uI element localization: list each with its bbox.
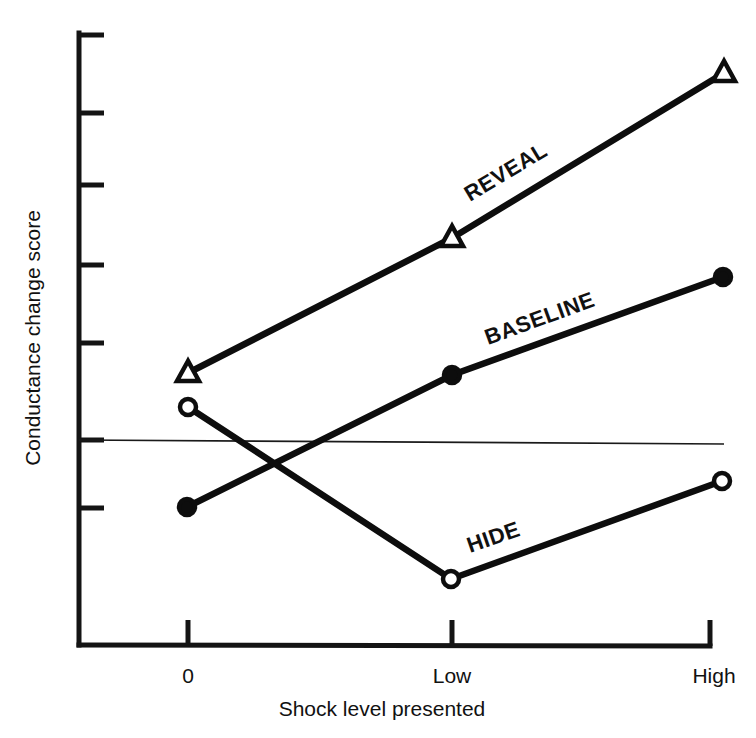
series-hide-line	[188, 407, 722, 579]
series-baseline-line	[187, 277, 723, 507]
series-hide-marker-0	[180, 399, 196, 415]
series-baseline-marker-2	[715, 269, 731, 285]
series-baseline	[179, 269, 731, 515]
x-axis-title: Shock level presented	[279, 697, 486, 720]
x-tick-label-high: High	[692, 664, 735, 687]
series-label-hide: HIDE	[463, 516, 523, 557]
x-tick-label-low: Low	[433, 664, 472, 687]
x-axis-group	[79, 620, 710, 646]
x-axis-line	[79, 645, 710, 646]
series-reveal-marker-2	[713, 61, 735, 81]
figure-container: 0 Low High Shock level presented Conduct…	[0, 0, 756, 738]
y-axis-group	[79, 33, 104, 645]
series-reveal-marker-1	[441, 226, 463, 246]
series-reveal-marker-0	[177, 361, 199, 381]
series-hide-marker-1	[443, 571, 459, 587]
series-hide-marker-2	[714, 473, 730, 489]
zero-reference-line	[79, 440, 724, 444]
series-reveal-line	[188, 73, 724, 373]
series-baseline-marker-0	[179, 499, 195, 515]
series-baseline-marker-1	[444, 367, 460, 383]
y-axis-title: Conductance change score	[21, 210, 44, 466]
series-hide	[180, 399, 730, 587]
series-label-reveal: REVEAL	[460, 137, 552, 206]
line-chart: 0 Low High Shock level presented Conduct…	[0, 0, 756, 738]
x-tick-label-0: 0	[182, 664, 194, 687]
series-reveal	[177, 61, 735, 381]
